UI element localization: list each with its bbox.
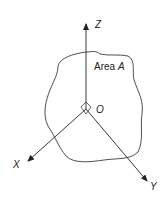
- x-axis-label: X: [12, 159, 20, 170]
- area-label-prefix: Area: [94, 61, 118, 72]
- area-label: Area A: [94, 61, 125, 72]
- x-axis: [28, 109, 86, 161]
- diagram-canvas: Z X Y O Area A: [0, 0, 166, 202]
- origin-label: O: [96, 104, 104, 115]
- y-axis: [86, 109, 147, 181]
- coordinate-area-diagram: Z X Y O Area A: [0, 0, 166, 202]
- y-axis-label: Y: [150, 181, 158, 192]
- area-label-symbol: A: [117, 61, 125, 72]
- z-axis-label: Z: [94, 19, 102, 30]
